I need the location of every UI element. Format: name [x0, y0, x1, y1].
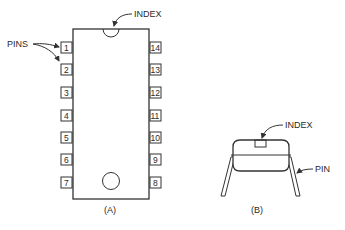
figure-b-side-view: INDEX PIN (B) [221, 120, 330, 215]
caption-b: (B) [251, 205, 263, 215]
pin-6: 6 [61, 154, 72, 165]
pins-label: PINS [7, 39, 28, 49]
chip-body [73, 29, 149, 199]
left-pins: 1 2 3 4 5 6 7 [61, 42, 72, 188]
pin-number: 3 [64, 88, 69, 98]
pin-13: 13 [150, 64, 161, 75]
pin-3: 3 [61, 87, 72, 98]
pin-number: 4 [64, 111, 69, 121]
pin-number: 5 [64, 133, 69, 143]
pin-4: 4 [61, 110, 72, 121]
caption-a: (A) [104, 205, 116, 215]
pin-number: 14 [151, 43, 161, 53]
index-leader-arrow-icon [114, 14, 132, 26]
right-pins: 14 13 12 11 10 9 8 [150, 42, 161, 188]
index-label-b: INDEX [285, 120, 313, 130]
pin-number: 10 [151, 133, 161, 143]
pin-number: 6 [64, 155, 69, 165]
pin-number: 1 [64, 43, 69, 53]
pin-label: PIN [315, 164, 330, 174]
pin-8: 8 [150, 177, 161, 188]
index-label-a: INDEX [134, 9, 162, 19]
pin-number: 9 [153, 155, 158, 165]
pin-number: 8 [153, 178, 158, 188]
pin-2: 2 [61, 64, 72, 75]
pin-number: 11 [151, 111, 160, 121]
index-b-leader-arrow-icon [262, 125, 283, 138]
pin-number: 13 [151, 65, 161, 75]
pin-1: 1 [61, 42, 72, 53]
pin-5: 5 [61, 132, 72, 143]
pin-number: 2 [64, 65, 69, 75]
pin-10: 10 [150, 132, 161, 143]
pin-9: 9 [150, 154, 161, 165]
pins-arrow-2-icon [33, 44, 59, 61]
pin-7: 7 [61, 177, 72, 188]
pin-12: 12 [150, 87, 161, 98]
figure-a-top-view: 1 2 3 4 5 6 7 14 13 12 11 10 9 8 INDEX P… [7, 9, 162, 215]
pin-number: 7 [64, 178, 69, 188]
pin-number: 12 [151, 88, 161, 98]
dip-ic-diagram: 1 2 3 4 5 6 7 14 13 12 11 10 9 8 INDEX P… [0, 0, 345, 230]
pin-14: 14 [150, 42, 161, 53]
pin-leader-arrow-icon [297, 169, 313, 173]
pin-11: 11 [150, 110, 161, 121]
